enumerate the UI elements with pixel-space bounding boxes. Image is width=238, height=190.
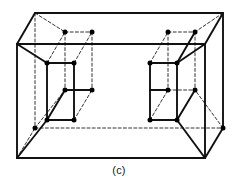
- figure-caption: (c): [0, 164, 238, 176]
- left-subcell-solid-edges: [17, 44, 92, 158]
- r-depth-top-right-solid: [177, 32, 195, 63]
- atom-outer-right-bottom-back: [221, 126, 226, 131]
- outer-edge-top-right-depth: [205, 13, 223, 44]
- right-subcell-solid-edges: [150, 32, 205, 158]
- l-tie-outer-back-top: [35, 13, 65, 32]
- atom-r-back-bottom-left: [166, 88, 171, 93]
- atom-r-back-bottom-right: [193, 88, 198, 93]
- atom-l-back-bottom-left: [63, 88, 68, 93]
- r-corner-tie-top: [177, 44, 205, 63]
- atom-l-front-top-right: [72, 61, 77, 66]
- outer-edge-top-left-depth: [17, 13, 35, 44]
- r-tie-outer-back-top: [195, 13, 223, 32]
- atom-r-back-top-left: [166, 30, 171, 35]
- atom-r-front-bottom-right: [175, 118, 180, 123]
- atom-l-back-bottom-right: [90, 88, 95, 93]
- atom-l-back-top-left: [63, 30, 68, 35]
- l-depth-bottom-left-solid: [47, 90, 65, 120]
- atom-r-front-top-right: [175, 61, 180, 66]
- crystal-unit-cell-svg: [0, 0, 238, 190]
- l-corner-tie-bottom: [17, 120, 47, 158]
- atom-outer-left-bottom-back: [33, 126, 38, 131]
- l-corner-tie-top: [17, 44, 47, 63]
- r-corner-tie-bottom: [177, 120, 205, 158]
- r-depth-top-left: [150, 32, 168, 63]
- atom-l-front-bottom-left: [45, 118, 50, 123]
- atom-r-front-bottom-left: [148, 118, 153, 123]
- atom-l-front-bottom-right: [72, 118, 77, 123]
- r-depth-bottom-right-solid: [177, 90, 195, 120]
- atom-r-front-top-left: [148, 61, 153, 66]
- l-depth-top-left: [47, 32, 65, 63]
- crystal-structure-figure: (c): [0, 0, 238, 190]
- outer-edge-bottom-right-depth: [205, 128, 223, 158]
- atom-l-back-top-right: [90, 30, 95, 35]
- l-depth-bottom-right: [74, 90, 92, 120]
- r-depth-bottom-left: [150, 90, 168, 120]
- atom-l-front-top-left: [45, 61, 50, 66]
- atom-r-back-top-right: [193, 30, 198, 35]
- r-tie-outer-back-bottom: [195, 90, 223, 128]
- l-depth-top-right: [74, 32, 92, 63]
